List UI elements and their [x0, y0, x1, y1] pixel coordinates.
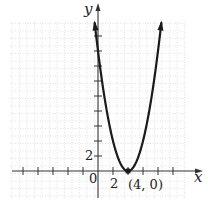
x-tick-label-2: 2	[110, 176, 118, 191]
origin-label: 0	[89, 171, 97, 186]
x-axis-label: x	[194, 168, 203, 186]
parabola-curve	[95, 22, 162, 171]
vertex-label: (4, 0)	[128, 177, 163, 192]
curve-arrowheads	[93, 20, 164, 30]
vertex-point	[125, 168, 131, 174]
y-axis-label: y	[83, 0, 93, 18]
parabola-chart: y x 0 2 2 (4, 0)	[0, 0, 208, 203]
axes	[12, 3, 203, 198]
y-tick-label-2: 2	[85, 148, 93, 163]
